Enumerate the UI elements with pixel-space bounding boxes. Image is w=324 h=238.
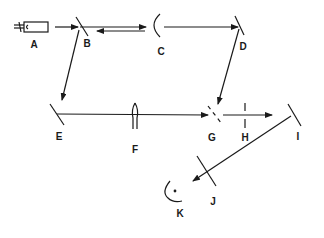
mirror-i-icon — [288, 104, 301, 126]
optical-diagram: A B C D E F G H I J K — [0, 0, 324, 238]
label-j: J — [210, 197, 216, 207]
label-g: G — [208, 133, 216, 143]
label-k: K — [176, 209, 183, 219]
concave-mirror-c-icon — [154, 14, 160, 37]
label-h: H — [241, 133, 248, 143]
label-e: E — [56, 132, 63, 142]
label-a: A — [30, 40, 37, 50]
beam-i-k — [193, 116, 291, 181]
beam-d-g — [218, 29, 239, 104]
detector-k-icon — [165, 181, 182, 202]
diagram-drawing — [0, 0, 324, 238]
label-c: C — [157, 47, 164, 57]
filter-j-icon — [197, 156, 216, 186]
label-d: D — [239, 42, 246, 52]
beam-b-e — [62, 30, 79, 100]
combiner-g-icon — [208, 106, 222, 124]
label-b: B — [83, 39, 90, 49]
label-i: I — [297, 132, 300, 142]
lens-f-icon — [132, 103, 137, 129]
mirror-d-icon — [235, 16, 244, 35]
label-f: F — [132, 145, 138, 155]
laser-source-icon — [14, 22, 48, 32]
